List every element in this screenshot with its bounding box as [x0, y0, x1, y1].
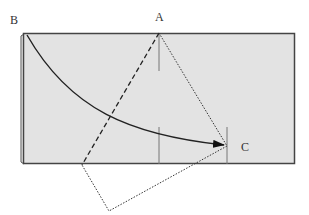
fold-diagram: B A C [0, 0, 309, 215]
label-a: A [155, 10, 164, 24]
label-c: C [241, 140, 249, 154]
label-b: B [10, 13, 18, 27]
